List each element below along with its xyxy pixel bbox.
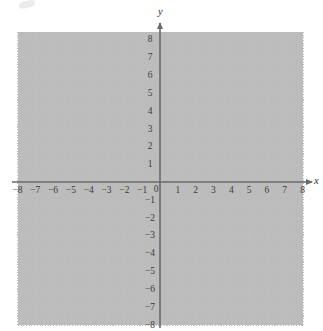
tick-label-x--8: −8: [10, 185, 24, 195]
tick-label-y--1: −1: [143, 195, 157, 205]
x-axis-label: x: [314, 175, 319, 186]
tick-label-origin: 0: [149, 184, 163, 194]
tick-label-y-6: 6: [143, 70, 157, 80]
tick-label-x--5: −5: [64, 185, 78, 195]
tick-label-y-8: 8: [143, 34, 157, 44]
tick-label-x--3: −3: [100, 185, 114, 195]
tick-label-x-1: 1: [171, 185, 185, 195]
tick-label-x--4: −4: [82, 185, 96, 195]
tick-label-x--2: −2: [117, 185, 131, 195]
y-axis-label: y: [158, 6, 163, 17]
tick-label-y--6: −6: [143, 284, 157, 294]
tick-label-x--6: −6: [46, 185, 60, 195]
tick-label-x--1: −1: [135, 185, 149, 195]
tick-label-y--8: −8: [143, 320, 157, 330]
tick-label-y-4: 4: [143, 106, 157, 116]
coordinate-plane-figure: −8−7−6−5−4−3−2−101234567887654321−1−2−3−…: [0, 0, 323, 331]
tick-label-x-5: 5: [242, 185, 256, 195]
tick-label-y-3: 3: [143, 124, 157, 134]
tick-label-y--3: −3: [143, 230, 157, 240]
tick-label-y-7: 7: [143, 52, 157, 62]
tick-label-y-1: 1: [143, 159, 157, 169]
tick-label-x-2: 2: [189, 185, 203, 195]
tick-label-y--4: −4: [143, 248, 157, 258]
tick-label-y-5: 5: [143, 88, 157, 98]
tick-label-y--2: −2: [143, 213, 157, 223]
tick-label-x-8: 8: [296, 185, 310, 195]
tick-label-y-2: 2: [143, 141, 157, 151]
tick-label-x-7: 7: [278, 185, 292, 195]
tick-label-y--7: −7: [143, 302, 157, 312]
axes-layer: [0, 0, 323, 331]
tick-label-x-6: 6: [260, 185, 274, 195]
tick-label-y--5: −5: [143, 266, 157, 276]
tick-label-x-4: 4: [224, 185, 238, 195]
tick-label-x-3: 3: [206, 185, 220, 195]
tick-label-x--7: −7: [28, 185, 42, 195]
